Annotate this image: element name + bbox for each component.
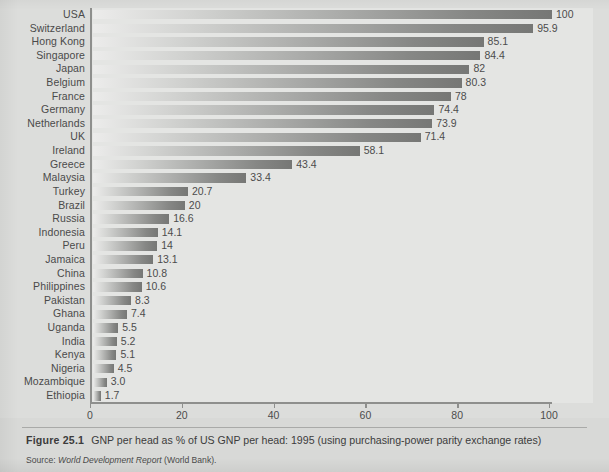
source-suffix: (World Bank). (162, 455, 217, 465)
bar (93, 337, 117, 346)
category-label: India (0, 335, 85, 349)
bar-value-label: 84.4 (484, 49, 504, 63)
bar-value-label: 5.5 (122, 321, 137, 335)
bar-value-label: 100 (556, 8, 574, 22)
category-label: Hong Kong (0, 35, 85, 49)
category-label: Germany (0, 103, 85, 117)
bar (93, 323, 118, 332)
bar-value-label: 7.4 (131, 307, 146, 321)
bar (93, 24, 533, 33)
bar-value-label: 73.9 (436, 117, 456, 131)
category-label: Malaysia (0, 171, 85, 185)
bar (93, 78, 462, 87)
x-axis-tick (274, 403, 275, 408)
figure-number: Figure 25.1 (26, 434, 84, 446)
bar-value-label: 4.5 (118, 362, 133, 376)
x-axis-tick (549, 403, 550, 408)
figure-caption: Figure 25.1GNP per head as % of US GNP p… (26, 434, 596, 446)
bar (93, 255, 153, 264)
bar-value-label: 43.4 (296, 158, 316, 172)
category-label: Ghana (0, 307, 85, 321)
bar-value-label: 95.9 (537, 22, 557, 36)
chart-panel: USA100Switzerland95.9Hong Kong85.1Singap… (0, 0, 609, 418)
bar-value-label: 74.4 (438, 103, 458, 117)
bar-value-label: 33.4 (250, 171, 270, 185)
source-prefix: Source: (26, 455, 58, 465)
bar (93, 187, 188, 196)
x-axis-tick (182, 403, 183, 408)
category-label: Pakistan (0, 294, 85, 308)
bar (93, 241, 157, 250)
category-label: France (0, 90, 85, 104)
bar (93, 228, 158, 237)
category-label: UK (0, 130, 85, 144)
bar (93, 378, 107, 387)
bar-value-label: 5.1 (120, 348, 135, 362)
bar-value-label: 5.2 (121, 335, 136, 349)
bar (93, 296, 131, 305)
category-label: Philippines (0, 280, 85, 294)
bar-value-label: 20.7 (192, 185, 212, 199)
source-title: World Development Report (58, 455, 162, 465)
category-label: USA (0, 8, 85, 22)
bar-value-label: 78 (455, 90, 467, 104)
category-label: Nigeria (0, 362, 85, 376)
bar-value-label: 20 (189, 199, 201, 213)
bar (93, 310, 127, 319)
x-axis-tick-label: 60 (345, 409, 385, 421)
bar (93, 201, 185, 210)
category-label: Greece (0, 158, 85, 172)
bar (93, 105, 434, 114)
x-axis-tick-label: 20 (162, 409, 202, 421)
bar-value-label: 82 (473, 62, 485, 76)
bar-value-label: 8.3 (135, 294, 150, 308)
x-axis-tick-label: 100 (529, 409, 569, 421)
figure-container: USA100Switzerland95.9Hong Kong85.1Singap… (0, 0, 609, 472)
category-label: Switzerland (0, 22, 85, 36)
x-axis-line (90, 402, 552, 404)
bar (93, 173, 246, 182)
bar (93, 282, 142, 291)
bar (93, 269, 143, 278)
category-label: Belgium (0, 76, 85, 90)
bar-value-label: 3.0 (111, 375, 126, 389)
bar-value-label: 13.1 (157, 253, 177, 267)
bar-value-label: 14 (161, 239, 173, 253)
category-label: Japan (0, 62, 85, 76)
bar (93, 160, 292, 169)
category-label: Brazil (0, 199, 85, 213)
category-label: Kenya (0, 348, 85, 362)
figure-source: Source: World Development Report (World … (26, 455, 596, 465)
x-axis-tick (457, 403, 458, 408)
bar-value-label: 16.6 (173, 212, 193, 226)
category-label: Uganda (0, 321, 85, 335)
x-axis-tick (90, 403, 91, 408)
category-label: Mozambique (0, 375, 85, 389)
y-axis-line (90, 8, 92, 403)
bar (93, 92, 451, 101)
bar (93, 214, 169, 223)
bar-value-label: 14.1 (162, 226, 182, 240)
category-label: Netherlands (0, 117, 85, 131)
bar (93, 119, 432, 128)
category-label: Turkey (0, 185, 85, 199)
bar-value-label: 80.3 (466, 76, 486, 90)
figure-caption-text: GNP per head as % of US GNP per head: 19… (91, 434, 541, 446)
bar (93, 51, 480, 60)
category-label: Peru (0, 239, 85, 253)
bar-value-label: 10.6 (146, 280, 166, 294)
bar (93, 391, 101, 400)
caption-divider (22, 427, 587, 428)
bar-value-label: 58.1 (364, 144, 384, 158)
bar-value-label: 10.8 (147, 267, 167, 281)
category-label: Ethiopia (0, 389, 85, 403)
bar (93, 10, 552, 19)
category-label: Russia (0, 212, 85, 226)
bar (93, 146, 360, 155)
x-axis-tick-label: 40 (254, 409, 294, 421)
bar (93, 364, 114, 373)
x-axis-tick-label: 80 (437, 409, 477, 421)
x-axis-tick (365, 403, 366, 408)
bar-value-label: 1.7 (105, 389, 120, 403)
category-label: China (0, 267, 85, 281)
